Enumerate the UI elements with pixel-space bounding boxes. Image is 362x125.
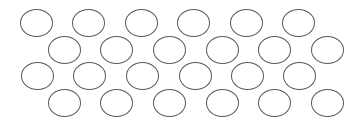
- ellipse-shape: [206, 89, 239, 117]
- ellipse-shape: [72, 9, 105, 37]
- ellipse-shape: [100, 36, 133, 64]
- ellipse-shape: [125, 9, 158, 37]
- ellipse-shape: [311, 36, 344, 64]
- ellipse-shape: [282, 9, 315, 37]
- ellipse-shape: [258, 89, 291, 117]
- ellipse-shape: [153, 36, 186, 64]
- ellipse-shape: [206, 36, 239, 64]
- ellipse-shape: [258, 36, 291, 64]
- ellipse-shape: [21, 62, 54, 90]
- ellipse-shape: [177, 9, 210, 37]
- ellipse-shape: [311, 89, 344, 117]
- ellipse-shape: [153, 89, 186, 117]
- ellipse-shape: [179, 62, 212, 90]
- ellipse-shape: [126, 62, 159, 90]
- ellipse-shape: [230, 9, 263, 37]
- ellipse-shape: [100, 89, 133, 117]
- ellipse-shape: [20, 9, 53, 37]
- ellipse-shape: [48, 36, 81, 64]
- ellipse-shape: [48, 89, 81, 117]
- ellipse-grid-diagram: [0, 0, 362, 125]
- ellipse-shape: [231, 62, 264, 90]
- ellipse-shape: [283, 62, 316, 90]
- ellipse-shape: [73, 62, 106, 90]
